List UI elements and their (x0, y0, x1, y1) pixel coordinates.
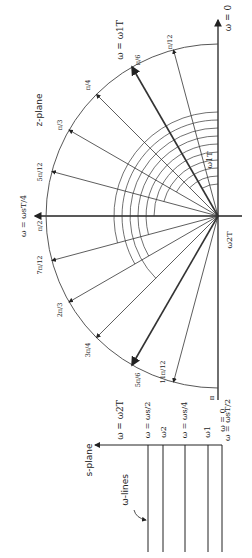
angle-label: 2π/3 (56, 303, 64, 318)
angle-omega1T-label: ω1T (205, 151, 214, 169)
z-to-s-plane-mapping-diagram: z-plane ω = 0 ω = ω1T ω = ωsT/4 ω = ω2T … (0, 0, 252, 558)
s-plane: s-plane ω-lines ω = ωs/2 ω2 ω = ωs/4 ω1 … (84, 402, 227, 552)
s-line-label: ω2 (159, 426, 168, 438)
angle-label: π/2 (36, 221, 44, 232)
z-plane-title: z-plane (34, 93, 44, 126)
omega2T-label: ω = ω2T (115, 400, 125, 440)
s-plane-title: s-plane (84, 443, 94, 476)
pi-label: π (208, 395, 216, 400)
angle-label: 7π/12 (36, 256, 44, 275)
omega-zero-label: ω = 0 (223, 5, 233, 32)
omega1T-label: ω = ω1T (115, 20, 125, 60)
omega-lines-label: ω-lines (120, 474, 130, 506)
s-line-label: ω = ωs/2 (143, 402, 152, 439)
s-line-label: ω1 (203, 426, 212, 438)
omega-lines-pointer (134, 510, 146, 520)
omega-s-over-4-label: ω = ωsT/4 (19, 195, 28, 237)
angle-omega2T-label: ω2T (225, 231, 234, 249)
angle-label: π/12 (166, 35, 174, 50)
s-line-label: ω = 0 (218, 408, 227, 431)
z-plane: z-plane ω = 0 ω = ω1T ω = ωsT/4 ω = ω2T … (19, 5, 242, 441)
angle-label: 5π/12 (36, 163, 44, 182)
angle-label: π/3 (56, 120, 64, 131)
angle-label: 5π/6 (134, 373, 142, 388)
angle-label: 11π/12 (159, 360, 167, 383)
angle-label: π/4 (84, 80, 92, 91)
angle-label: 3π/4 (84, 343, 92, 358)
angle-label: π/6 (134, 55, 142, 66)
s-line-label: ω = ωs/4 (180, 402, 189, 439)
